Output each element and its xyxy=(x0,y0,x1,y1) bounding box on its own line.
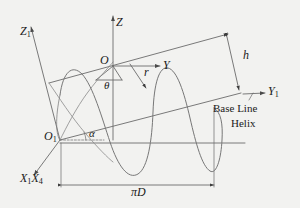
angle-alpha-arms xyxy=(60,132,104,140)
origin-label-o: O xyxy=(100,54,109,66)
dimension-label-h: h xyxy=(243,49,249,61)
helix-curve xyxy=(60,68,222,176)
angle-theta-arms xyxy=(96,66,122,80)
helix-diagram-figure: Z Z1 Y Y1 X1X4 O O1 θ α r h πD Base Line… xyxy=(0,0,300,208)
annotation-base-line: Base Line xyxy=(213,103,257,114)
axis-label-y1: Y1 xyxy=(268,85,279,97)
axis-label-y: Y xyxy=(163,59,170,71)
annotation-helix: Helix xyxy=(231,118,255,129)
dimension-label-r: r xyxy=(144,66,149,78)
axis-z1-line xyxy=(31,27,60,140)
axis-label-x1x4: X1X4 xyxy=(20,172,43,184)
angle-label-theta: θ xyxy=(104,80,109,91)
axis-label-z: Z xyxy=(116,16,123,28)
base-line-upper xyxy=(49,34,228,83)
angle-label-alpha: α xyxy=(89,128,95,139)
axis-label-z1: Z1 xyxy=(20,25,31,37)
origin-label-o1: O1 xyxy=(44,130,57,142)
dimension-label-piD: πD xyxy=(131,186,146,198)
dimension-h-line xyxy=(227,37,239,90)
helix-curve-back xyxy=(49,62,113,162)
axis-x1x4-line xyxy=(34,140,60,175)
